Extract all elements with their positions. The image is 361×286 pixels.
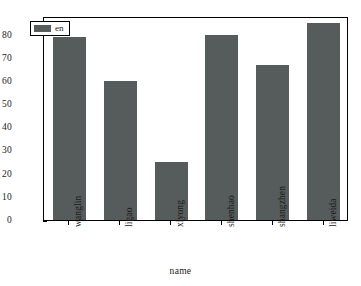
legend-label-en: en	[55, 24, 64, 33]
y-tick-label: 50	[0, 100, 12, 110]
y-tick-label: 60	[0, 77, 12, 87]
y-tick-label: 80	[0, 31, 12, 41]
x-tick-mark	[119, 221, 120, 225]
y-tick-mark	[43, 221, 47, 222]
y-tick-label: 20	[0, 170, 12, 180]
x-tick-mark	[323, 221, 324, 225]
x-tick-mark	[272, 221, 273, 225]
y-tick-label: 10	[0, 193, 12, 203]
legend-swatch-en	[34, 25, 51, 32]
y-tick-label: 70	[0, 54, 12, 64]
x-tick-mark	[170, 221, 171, 225]
legend: en	[30, 21, 70, 36]
x-tick-mark	[68, 221, 69, 225]
bar	[205, 35, 238, 220]
bar	[53, 37, 86, 220]
x-tick-label: xiyong	[175, 200, 185, 227]
y-tick-label: 40	[0, 123, 12, 133]
x-tick-label: wanglin	[73, 196, 83, 227]
bar-chart: 01020304050607080 wanglinligaoxiyongshen…	[0, 0, 361, 286]
plot-area	[43, 17, 348, 221]
x-tick-label: shangzhen	[277, 186, 287, 227]
x-axis-title: name	[0, 266, 361, 277]
x-tick-label: ligao	[124, 208, 134, 228]
y-tick-label: 30	[0, 146, 12, 156]
bar	[104, 81, 137, 220]
x-tick-mark	[221, 221, 222, 225]
x-tick-label: shenhao	[226, 195, 236, 227]
bar	[307, 23, 340, 220]
x-tick-label: liweida	[328, 198, 338, 227]
y-tick-label: 0	[0, 216, 12, 226]
